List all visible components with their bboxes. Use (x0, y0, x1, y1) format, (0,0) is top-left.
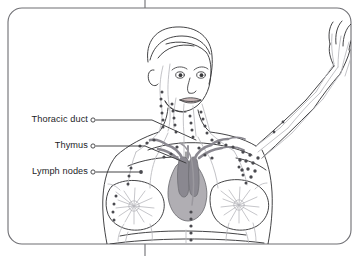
marker-thoracic-duct (91, 118, 95, 122)
lymphatic-system-figure (0, 0, 359, 260)
label-lymph-nodes: Lymph nodes (32, 166, 88, 176)
illustration-canvas: Thoracic duct Thymus Lymph nodes (0, 0, 359, 260)
label-thoracic-duct: Thoracic duct (32, 114, 88, 124)
marker-lymph-nodes (91, 170, 95, 174)
label-thymus: Thymus (55, 140, 88, 150)
marker-lymph-node-target (139, 170, 143, 174)
marker-thymus (91, 144, 95, 148)
